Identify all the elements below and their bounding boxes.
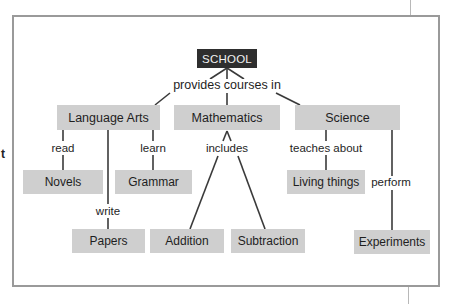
node-papers: Papers <box>72 229 145 253</box>
node-grammar: Grammar <box>115 170 192 194</box>
node-living-things: Living things <box>287 170 365 194</box>
link-provides-courses-in: provides courses in <box>172 79 282 92</box>
link-learn: learn <box>139 142 167 155</box>
link-read: read <box>50 142 75 155</box>
node-mathematics: Mathematics <box>174 105 280 130</box>
link-teaches-about: teaches about <box>289 142 363 155</box>
link-includes: includes <box>205 142 249 155</box>
link-perform: perform <box>370 176 412 189</box>
node-addition: Addition <box>150 229 224 253</box>
node-science: Science <box>295 105 400 130</box>
node-school: SCHOOL <box>197 49 257 68</box>
node-novels: Novels <box>23 170 103 194</box>
edge-math-includes-left <box>223 131 227 141</box>
edge-to-science <box>276 93 300 105</box>
node-language-arts: Language Arts <box>57 105 160 130</box>
edge-math-to-subtraction <box>238 156 265 229</box>
edge-math-includes-right <box>227 131 231 141</box>
link-write: write <box>95 205 121 218</box>
node-experiments: Experiments <box>354 230 430 254</box>
edge-to-language-arts <box>155 93 170 105</box>
node-subtraction: Subtraction <box>231 229 305 253</box>
edge-math-to-addition <box>190 156 218 229</box>
